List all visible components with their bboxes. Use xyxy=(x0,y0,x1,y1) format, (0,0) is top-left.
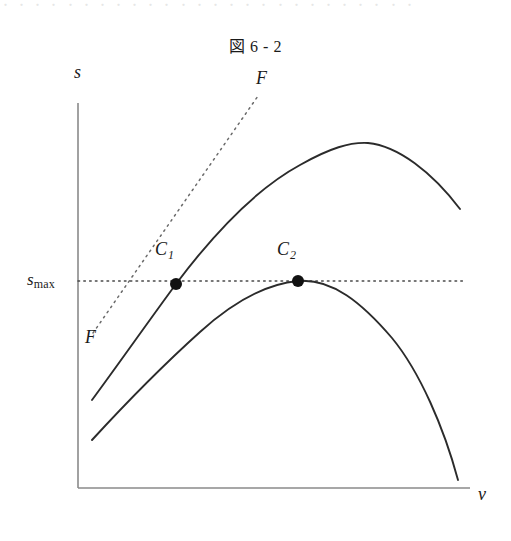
f-reference-line xyxy=(93,96,258,333)
c2-subscript: 2 xyxy=(289,248,296,262)
smax-base: s xyxy=(27,270,34,289)
c2-base: C xyxy=(277,239,289,259)
marker-c1 xyxy=(170,278,182,290)
c1-subscript: 1 xyxy=(167,248,174,262)
c1-label: C1 xyxy=(155,239,174,263)
c1-base: C xyxy=(155,239,167,259)
lower-curve xyxy=(92,281,458,480)
smax-subscript: max xyxy=(34,277,55,291)
f-label-top: F xyxy=(256,68,267,89)
x-axis-label: v xyxy=(478,484,486,505)
c2-label: C2 xyxy=(277,239,296,263)
smax-axis-tick-label: smax xyxy=(27,270,55,292)
upper-curve xyxy=(92,143,460,400)
f-label-bottom: F xyxy=(85,327,96,348)
y-axis-label: s xyxy=(74,62,81,83)
figure-page: ・ ・ ・ ・ ・ ・ ・ ・ ・ ・ ・ ・ ・ ・ ・ ・ ・ ・ ・ ・ … xyxy=(0,0,511,541)
marker-c2 xyxy=(292,275,304,287)
